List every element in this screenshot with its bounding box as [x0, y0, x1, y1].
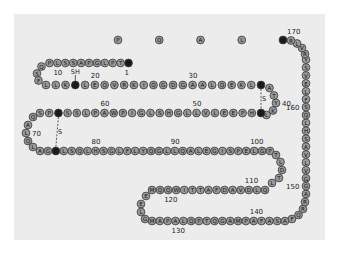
- residue-letter: E: [144, 193, 148, 199]
- residue: L: [52, 81, 60, 89]
- residue-letter: A: [304, 191, 308, 197]
- residue: S: [36, 109, 44, 117]
- residue: P: [234, 147, 242, 155]
- residue: Q: [38, 63, 46, 71]
- residue: R: [299, 205, 307, 213]
- residue: M: [148, 186, 156, 194]
- residue: T: [203, 217, 211, 225]
- residue: K: [238, 81, 246, 89]
- residue: L: [238, 36, 246, 44]
- residue: A: [189, 81, 197, 89]
- residue-letter: A: [283, 218, 287, 224]
- residue: V: [302, 166, 310, 174]
- residue: F: [35, 77, 43, 85]
- residue: Q: [179, 147, 187, 155]
- residue: A: [302, 143, 310, 151]
- residue: E: [302, 80, 310, 88]
- residue-letter: G: [143, 216, 147, 222]
- residue-letter: A: [304, 144, 308, 150]
- residue: E: [242, 147, 250, 155]
- residue-letter: F: [126, 148, 129, 154]
- residue: Q: [76, 147, 84, 155]
- residue: C: [257, 81, 265, 89]
- residue: G: [179, 81, 187, 89]
- residue-letter: V: [239, 187, 243, 193]
- residue-letter: Q: [31, 114, 36, 120]
- residue: R: [301, 198, 309, 206]
- residue: L: [183, 109, 191, 117]
- residue: S: [302, 103, 310, 111]
- residue-letter: A: [207, 187, 211, 193]
- residue: P: [239, 109, 247, 117]
- residue: A: [198, 81, 206, 89]
- residue: L: [101, 59, 109, 67]
- residue-letter: D: [222, 187, 226, 193]
- residue-letter: V: [304, 168, 308, 174]
- residue-letter: S: [70, 148, 74, 154]
- residue-letter: R: [303, 199, 307, 205]
- residue: R: [120, 81, 128, 89]
- residue: R: [287, 37, 295, 45]
- residue: V: [237, 186, 245, 194]
- residue: G: [159, 81, 167, 89]
- residue-letter: Q: [189, 218, 194, 224]
- residue-letter: A: [268, 85, 272, 91]
- residue-letter: A: [228, 218, 232, 224]
- residue-letter: M: [126, 60, 131, 66]
- residue: S: [68, 147, 76, 155]
- residue-letter: A: [191, 82, 195, 88]
- residue: Q: [147, 147, 155, 155]
- residue-letter: E: [139, 201, 143, 207]
- residue: S: [100, 147, 108, 155]
- residue: L: [302, 87, 310, 95]
- residue: I: [128, 109, 136, 117]
- residue-letter: C: [73, 82, 77, 88]
- residue: P: [109, 59, 117, 67]
- residue-letter: Q: [181, 148, 186, 154]
- residue: L: [277, 158, 285, 166]
- residue-letter: T: [273, 152, 278, 158]
- residue: L: [22, 129, 30, 137]
- residue: G: [44, 147, 52, 155]
- residue-letter: H: [304, 128, 308, 134]
- residue: E: [137, 200, 145, 208]
- residue: L: [193, 109, 201, 117]
- residue: G: [174, 109, 182, 117]
- position-label: 1: [125, 69, 129, 77]
- residue-letter: S: [75, 110, 79, 116]
- residue: A: [197, 36, 205, 44]
- residue-letter: Q: [158, 187, 163, 193]
- residue-letter: K: [132, 82, 136, 88]
- residue-letter: W: [111, 110, 117, 116]
- residue: G: [93, 59, 101, 67]
- residue: A: [36, 147, 44, 155]
- residue-letter: K: [271, 108, 275, 114]
- residue-letter: V: [300, 45, 304, 51]
- residue: G: [302, 182, 310, 190]
- disulfide-label: S: [58, 128, 62, 136]
- residue-letter: H: [93, 148, 97, 154]
- residue: P: [195, 217, 203, 225]
- residue-letter: A: [174, 218, 178, 224]
- residue-letter: S: [229, 148, 233, 154]
- residue-letter: F: [260, 218, 263, 224]
- residue: L: [302, 159, 310, 167]
- residue-letter: V: [304, 73, 308, 79]
- residue: P: [91, 109, 99, 117]
- residue: S: [273, 217, 281, 225]
- protein-sequence-diagram: SSSHMTPLGPASSLPQSFLLKCLEQVRKIQGDGAALQEKL…: [0, 0, 340, 256]
- residue: Q: [187, 217, 195, 225]
- residue: V: [202, 109, 210, 117]
- position-label: 110: [245, 177, 258, 185]
- residue: S: [61, 59, 69, 67]
- residue-letter: S: [71, 60, 75, 66]
- residue: K: [130, 81, 138, 89]
- residue: A: [77, 59, 85, 67]
- residue: G: [107, 147, 115, 155]
- residue-letter: T: [204, 218, 209, 224]
- residue: A: [250, 217, 258, 225]
- position-label: 70: [32, 130, 41, 138]
- residue: L: [147, 109, 155, 117]
- residue: A: [187, 147, 195, 155]
- residue-letter: Q: [77, 148, 82, 154]
